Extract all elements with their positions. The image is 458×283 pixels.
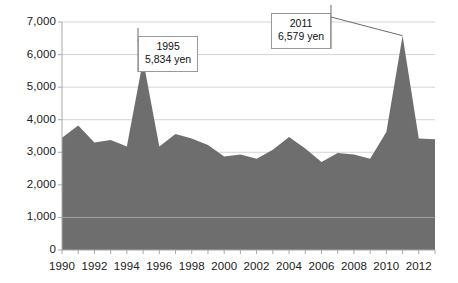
annotation-value: 6,579 yen — [278, 30, 324, 43]
annotation-year: 2011 — [278, 17, 324, 30]
x-axis-tick-label: 1994 — [114, 261, 140, 273]
x-axis-labels: 1990199219941996199820002002200420062008… — [0, 0, 458, 283]
x-axis-tick-label: 2008 — [341, 261, 367, 273]
area-chart: 7,0006,0005,0004,0003,0002,0001,0000 199… — [0, 0, 458, 283]
x-axis-tick-label: 2010 — [373, 261, 399, 273]
x-axis-tick-label: 2006 — [308, 261, 334, 273]
annotation-callout-1995: 1995 5,834 yen — [138, 36, 198, 72]
x-axis-tick-label: 1990 — [49, 261, 75, 273]
annotation-year: 1995 — [145, 40, 191, 53]
x-axis-tick-label: 2002 — [244, 261, 270, 273]
x-axis-tick-label: 2012 — [406, 261, 432, 273]
x-axis-tick-label: 1996 — [146, 261, 172, 273]
x-axis-tick-label: 2004 — [276, 261, 302, 273]
annotation-callout-2011: 2011 6,579 yen — [271, 13, 331, 49]
x-axis-tick-label: 1998 — [179, 261, 205, 273]
annotation-value: 5,834 yen — [145, 53, 191, 66]
x-axis-tick-label: 1992 — [81, 261, 107, 273]
x-axis-tick-label: 2000 — [211, 261, 237, 273]
